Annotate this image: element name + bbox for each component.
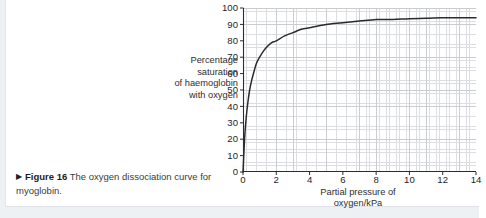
chart-axes-and-curve (243, 8, 476, 172)
figure-number: Figure 16 (25, 171, 67, 182)
content-panel: Percentage saturation of haemoglobin wit… (5, 0, 479, 207)
y-tick-label-40: 40 (216, 102, 238, 112)
chart-plot-area (243, 8, 476, 172)
y-tick-label-80: 80 (216, 36, 238, 46)
y-tick-label-60: 60 (216, 69, 238, 79)
x-axis-title-line-2: oxygen/kPa (258, 198, 458, 209)
x-tick-label-6: 6 (333, 175, 353, 185)
figure-caption: ▶Figure 16 The oxygen dissociation curve… (16, 170, 231, 197)
y-tick-label-70: 70 (216, 52, 238, 62)
y-axis-tick-labels: 0102030405060708090100 (214, 8, 238, 172)
x-tick-label-8: 8 (366, 175, 386, 185)
x-axis-title: Partial pressure of oxygen/kPa (258, 187, 458, 209)
caption-triangle-icon: ▶ (16, 170, 22, 183)
y-tick-label-50: 50 (216, 85, 238, 95)
x-tick-label-2: 2 (266, 175, 286, 185)
x-tick-label-0: 0 (233, 175, 253, 185)
x-tick-label-12: 12 (433, 175, 453, 185)
x-tick-label-4: 4 (300, 175, 320, 185)
x-axis-title-line-1: Partial pressure of (258, 187, 458, 198)
dissociation-curve-myoglobin (243, 18, 476, 172)
y-tick-label-90: 90 (216, 20, 238, 30)
y-tick-label-20: 20 (216, 134, 238, 144)
x-axis-tick-labels: 02468101214 (243, 175, 476, 187)
x-tick-label-14: 14 (466, 175, 486, 185)
x-tick-label-10: 10 (399, 175, 419, 185)
y-tick-label-30: 30 (216, 118, 238, 128)
y-tick-label-100: 100 (216, 3, 238, 13)
y-tick-label-10: 10 (216, 151, 238, 161)
